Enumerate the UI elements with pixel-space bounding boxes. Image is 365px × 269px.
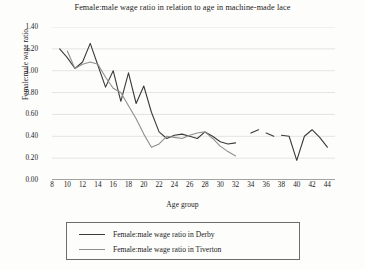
legend-line-swatch-derby (79, 234, 105, 235)
legend-item-derby: Female:male wage ratio in Derby (79, 227, 299, 242)
y-axis-tick-label: 0.20 (8, 154, 38, 162)
x-axis-tick-label: 20 (140, 181, 147, 189)
x-axis-tick-label: 14 (94, 181, 101, 189)
series-line-female-male-wage-ratio-in-tiverton (67, 51, 235, 156)
series-line-female-male-wage-ratio-in-derby-segment (266, 133, 274, 136)
x-axis-tick-label: 42 (308, 181, 315, 189)
x-axis-tick-label: 34 (247, 181, 254, 189)
gridlines (52, 27, 335, 180)
y-axis-tick-label: 0.60 (8, 110, 38, 118)
y-axis-tick-label: 1.00 (8, 67, 38, 75)
y-axis-tick-label: 0.00 (8, 176, 38, 184)
series-lines (60, 43, 328, 160)
legend-label-derby: Female:male wage ratio in Derby (113, 230, 215, 239)
x-axis-tick-label: 22 (155, 181, 162, 189)
x-axis-tick-label: 32 (232, 181, 239, 189)
plot-svg (52, 27, 335, 180)
x-axis-label: Age group (0, 200, 365, 209)
x-axis-tick-label: 18 (125, 181, 132, 189)
chart-legend: Female:male wage ratio in Derby Female:m… (66, 222, 300, 260)
legend-item-tiverton: Female:male wage ratio in Tiverton (79, 242, 299, 257)
series-line-female-male-wage-ratio-in-derby (60, 43, 236, 144)
x-axis-tick-label: 28 (201, 181, 208, 189)
legend-label-tiverton: Female:male wage ratio in Tiverton (113, 245, 221, 254)
x-axis-tick-label: 24 (171, 181, 178, 189)
x-axis-tick-label: 10 (64, 181, 71, 189)
x-axis-tick-label: 44 (324, 181, 331, 189)
series-line-female-male-wage-ratio-in-derby-segment (251, 130, 259, 133)
x-axis-tick-label: 40 (293, 181, 300, 189)
chart-container: Female:male wage ratio in relation to ag… (0, 0, 365, 269)
x-axis-tick-label: 12 (79, 181, 86, 189)
x-axis-tick-label: 38 (278, 181, 285, 189)
legend-line-swatch-tiverton (79, 249, 105, 250)
x-axis-tick-label: 8 (50, 181, 54, 189)
x-axis-tick-label: 30 (217, 181, 224, 189)
x-axis-tick-label: 16 (110, 181, 117, 189)
chart-title: Female:male wage ratio in relation to ag… (0, 3, 365, 12)
x-axis-tick-label: 36 (263, 181, 270, 189)
plot-area (52, 27, 335, 180)
series-line-female-male-wage-ratio-in-derby-segment (281, 130, 327, 161)
y-axis-tick-label: 0.40 (8, 132, 38, 140)
y-axis-tick-label: 1.20 (8, 45, 38, 53)
x-axis-tick-label: 26 (186, 181, 193, 189)
y-axis-tick-label: 0.80 (8, 89, 38, 97)
y-axis-tick-label: 1.40 (8, 23, 38, 31)
y-axis-ticks: 0.000.200.400.600.801.001.201.40 (8, 0, 38, 269)
